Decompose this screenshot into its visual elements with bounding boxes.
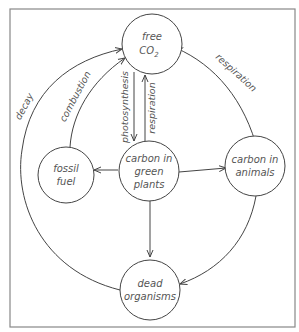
svg-text:dead: dead: [138, 278, 164, 289]
svg-text:green: green: [134, 166, 163, 177]
edge-animals-to-dead: [180, 196, 256, 284]
label-respiration-plants: respiration: [146, 82, 157, 133]
svg-text:fossil: fossil: [53, 163, 79, 174]
edge-respiration-animals: [176, 48, 258, 152]
edge-plants-to-animals: [179, 168, 226, 172]
edge-combustion: [70, 58, 125, 147]
svg-text:plants: plants: [133, 179, 165, 190]
label-respiration-animals: respiration: [214, 51, 259, 93]
carbon-cycle-diagram: free CO2 fossil fuel carbon in green pla…: [0, 0, 299, 332]
node-fossil-fuel: fossil fuel: [38, 147, 94, 203]
svg-text:carbon in: carbon in: [126, 153, 173, 164]
label-photosynthesis: photosynthesis: [119, 71, 130, 144]
svg-text:animals: animals: [235, 167, 274, 178]
node-carbon-in-green-plants: carbon in green plants: [119, 141, 179, 201]
svg-text:fuel: fuel: [57, 176, 76, 187]
svg-text:free: free: [142, 31, 162, 42]
svg-text:carbon in: carbon in: [232, 154, 279, 165]
node-carbon-in-animals: carbon in animals: [225, 136, 285, 196]
node-free-co2: free CO2: [122, 14, 182, 74]
node-dead-organisms: dead organisms: [120, 260, 180, 320]
svg-text:organisms: organisms: [124, 291, 176, 302]
label-decay: decay: [12, 91, 35, 122]
